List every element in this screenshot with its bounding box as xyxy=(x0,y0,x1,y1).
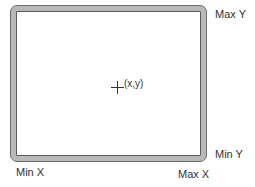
canvas-area xyxy=(16,11,201,156)
min-x-label: Min X xyxy=(16,166,44,178)
point-label: (x,y) xyxy=(124,78,143,89)
bounding-frame xyxy=(10,5,207,162)
crosshair-icon xyxy=(111,81,124,94)
min-y-label: Min Y xyxy=(215,148,243,160)
max-x-label: Max X xyxy=(178,168,209,180)
max-y-label: Max Y xyxy=(215,8,246,20)
